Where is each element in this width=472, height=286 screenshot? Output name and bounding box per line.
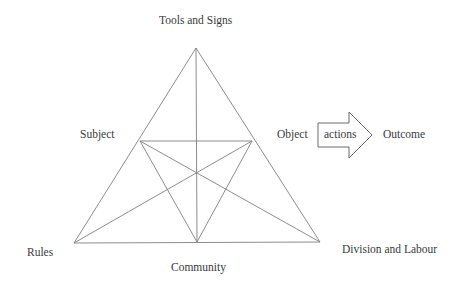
cross-line-left	[74, 141, 252, 243]
label-actions: actions	[324, 129, 357, 141]
label-rules: Rules	[27, 247, 53, 259]
label-object: Object	[277, 129, 308, 141]
activity-diagram: Tools and Signs Subject Object actions O…	[0, 0, 472, 286]
vertical-line	[196, 48, 197, 242]
inner-right-edge	[197, 141, 252, 242]
label-division-and-labour: Division and Labour	[342, 244, 437, 256]
label-tools-and-signs: Tools and Signs	[159, 15, 232, 27]
cross-line-right	[140, 141, 320, 242]
label-subject: Subject	[80, 129, 115, 141]
label-community: Community	[171, 262, 226, 274]
label-outcome: Outcome	[383, 129, 425, 141]
inner-left-edge	[140, 141, 197, 242]
